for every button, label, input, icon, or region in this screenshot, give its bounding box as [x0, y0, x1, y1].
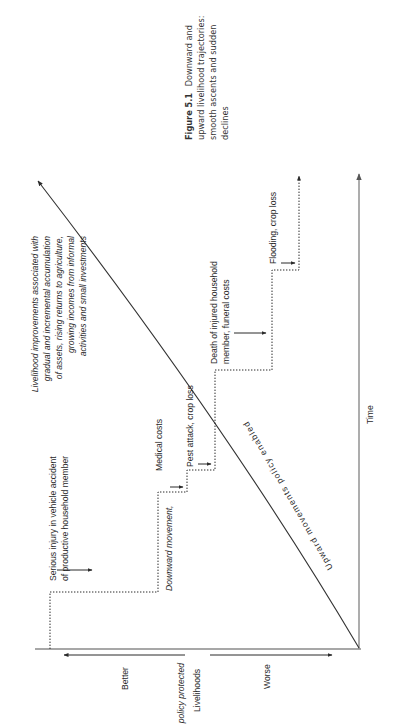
annotation-line-1: Livelihood improvements associated with — [30, 236, 40, 392]
pest-attack-label: Pest attack, crop loss — [185, 385, 195, 467]
downward-line-2: policy protected — [176, 663, 186, 724]
livelihoods-label: Livelihoods — [192, 669, 202, 712]
serious-injury-line-1: Serious injury in vehicle accident — [48, 456, 58, 581]
annotation-line-4: growing incomes from informal — [66, 235, 76, 353]
death-line-2: member, funeral costs — [221, 279, 231, 364]
livelihood-trajectory-diagram: Figure 5.1 Downward and upward livelihoo… — [0, 0, 393, 725]
event-flooding: Flooding, crop loss — [268, 192, 295, 264]
time-label: Time — [365, 405, 375, 424]
annotation-line-2: gradual and incremental accumulation — [42, 236, 52, 381]
figure-caption: Figure 5.1 Downward and upward livelihoo… — [184, 16, 230, 140]
annotation-line-5: activities and small investments — [78, 235, 88, 356]
event-death: Death of injured household member, funer… — [209, 261, 266, 364]
worse-label: Worse — [262, 664, 272, 689]
caption-line-1: Downward and — [184, 25, 194, 86]
serious-injury-line-2: of productive household member — [60, 456, 70, 581]
caption-line-4: declines — [220, 106, 230, 140]
death-line-1: Death of injured household — [209, 261, 219, 364]
caption-label: Figure 5.1 — [184, 93, 194, 140]
caption-line-2: upward livelihood trajectories: — [196, 16, 206, 140]
annotation-line-3: of assets, rising returns to agriculture… — [54, 236, 64, 379]
event-pest-attack: Pest attack, crop loss — [185, 385, 211, 467]
event-serious-injury: Serious injury in vehicle accident of pr… — [48, 456, 92, 581]
event-downward-protected: Downward movement, policy protected — [164, 506, 186, 725]
event-medical-costs: Medical costs — [154, 419, 183, 487]
caption-line-3: smooth ascents and sudden — [208, 25, 218, 140]
curve-annotation: Livelihood improvements associated with … — [30, 235, 88, 392]
downward-line-1: Downward movement, — [164, 506, 174, 592]
flooding-label: Flooding, crop loss — [268, 192, 278, 264]
medical-costs-label: Medical costs — [154, 419, 164, 471]
better-label: Better — [120, 667, 130, 690]
svg-text:Figure 5.1 Downward and: Figure 5.1 Downward and — [184, 25, 194, 140]
upward-curve-label: Upward movements policy enabled — [241, 419, 335, 572]
